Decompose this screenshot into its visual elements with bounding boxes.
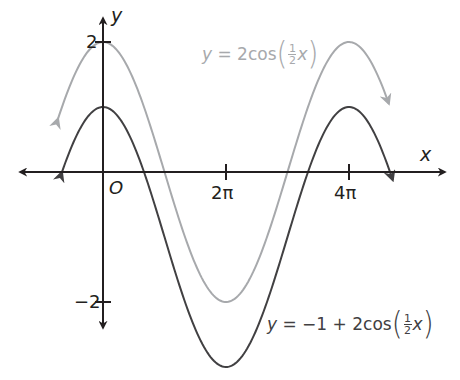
tick-label-yneg2: −2 [74, 291, 101, 312]
eq1-var: x [297, 44, 307, 64]
eq2-open-paren: ( [392, 308, 403, 340]
x-axis-label: x [420, 143, 431, 165]
tick-label-y2: 2 [86, 31, 97, 52]
equation-label-light: y = 2cos ( 1 2 x ) [202, 40, 318, 68]
eq2-denominator: 2 [404, 325, 411, 336]
eq2-fraction: 1 2 [404, 313, 412, 336]
eq2-close-paren: ) [423, 308, 434, 340]
eq2-numerator: 1 [404, 313, 411, 324]
eq2-rhs: = −1 + 2cos [277, 314, 392, 334]
equation-label-dark: y = −1 + 2cos ( 1 2 x ) [267, 310, 434, 338]
eq1-close-paren: ) [308, 38, 319, 70]
tick-label-4pi: 4π [334, 182, 356, 203]
eq2-var: x [413, 314, 423, 334]
eq1-open-paren: ( [277, 38, 288, 70]
y-axis-label: y [111, 4, 122, 26]
eq2-lhs: y [267, 314, 277, 334]
origin-label: O [109, 177, 123, 198]
tick-label-2pi: 2π [211, 182, 233, 203]
eq1-rhs: = 2cos [212, 44, 276, 64]
eq1-numerator: 1 [289, 43, 296, 54]
eq1-denominator: 2 [289, 55, 296, 66]
eq1-lhs: y [202, 44, 212, 64]
eq1-fraction: 1 2 [288, 43, 296, 66]
